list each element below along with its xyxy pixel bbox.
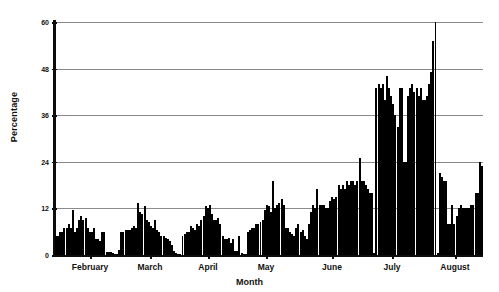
- x-tick: [266, 255, 268, 259]
- x-axis-title: Month: [0, 277, 499, 287]
- x-tick-label-february: February: [72, 262, 108, 272]
- y-tick-label: 24: [41, 159, 49, 166]
- x-tick: [90, 255, 92, 259]
- y-axis-title: Percentage: [9, 77, 19, 157]
- y-tick-label: 60: [41, 19, 49, 26]
- bar: [481, 166, 483, 255]
- x-tick-label-april: April: [198, 262, 217, 272]
- y-tick-label: 48: [41, 66, 49, 73]
- bar: [435, 22, 437, 255]
- x-tick-label-august: August: [440, 262, 469, 272]
- plot-area: 01224364860: [55, 22, 483, 255]
- x-tick: [208, 255, 210, 259]
- bar: [371, 193, 373, 255]
- chart-figure: Percentage 01224364860 FebruaryMarchApri…: [0, 0, 499, 292]
- x-tick-label-july: July: [383, 262, 400, 272]
- x-tick: [392, 255, 394, 259]
- x-tick-label-may: May: [258, 262, 275, 272]
- x-axis-line: [55, 255, 483, 257]
- y-tick-label: 0: [45, 252, 49, 259]
- x-tick-label-june: June: [322, 262, 342, 272]
- x-tick: [332, 255, 334, 259]
- x-tick: [150, 255, 152, 259]
- bar-series: [55, 22, 483, 255]
- x-tick-label-march: March: [137, 262, 162, 272]
- y-tick-label: 36: [41, 112, 49, 119]
- x-tick: [455, 255, 457, 259]
- y-tick-label: 12: [41, 205, 49, 212]
